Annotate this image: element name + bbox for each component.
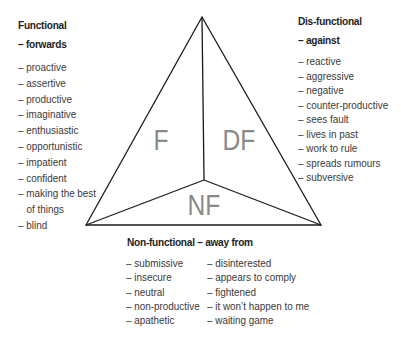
list-item: – work to rule (298, 141, 388, 156)
functional-section: Functional – forwards – proactive – asse… (18, 16, 109, 234)
list-item: – assertive (18, 76, 96, 92)
list-item: – impatient (18, 155, 96, 171)
divider-vertical (202, 17, 204, 180)
list-item: – sees fault (298, 112, 388, 127)
list-item: – confident (18, 171, 96, 187)
list-item-continuation: of things (18, 202, 96, 218)
dysfunctional-heading: Dis-functional – against (298, 12, 390, 50)
list-item: – neutral (126, 285, 200, 299)
non-functional-list-col1: – submissive – insecure – neutral – non-… (126, 256, 200, 327)
region-label-f: F (153, 124, 168, 156)
list-item: – fightened (207, 285, 309, 299)
list-item: – subversive (298, 170, 388, 185)
list-item: – enthusiastic (18, 123, 96, 139)
list-item: – non-productive (126, 299, 200, 313)
list-item: – disinterested (207, 256, 309, 270)
list-item: – submissive (126, 256, 200, 270)
non-functional-list-col2: – disinterested – appears to comply – fi… (207, 256, 309, 327)
list-item: – it won’t happen to me (207, 299, 309, 313)
list-item: – imaginative (18, 107, 96, 123)
divider-right (204, 180, 321, 225)
functional-heading: Functional – forwards (18, 16, 98, 54)
list-item: – reactive (298, 54, 388, 69)
region-label-df: DF (223, 124, 256, 156)
list-item: – aggressive (298, 69, 388, 84)
functional-heading-line1: Functional (18, 16, 98, 35)
dysfunctional-list: – reactive – aggressive – negative – cou… (298, 54, 388, 185)
dysfunctional-section: Dis-functional – against – reactive – ag… (298, 12, 401, 185)
list-item: – appears to comply (207, 270, 309, 284)
region-label-nf: NF (188, 189, 221, 221)
list-item: – waiting game (207, 313, 309, 327)
list-item: – negative (298, 83, 388, 98)
list-item: – opportunistic (18, 139, 96, 155)
functional-list: – proactive – assertive – productive – i… (18, 60, 96, 234)
dysfunctional-heading-line2: – against (298, 31, 390, 50)
dysfunctional-heading-line1: Dis-functional (298, 12, 390, 31)
list-item: – apathetic (126, 313, 200, 327)
list-item: – lives in past (298, 127, 388, 142)
list-item: – blind (18, 218, 96, 234)
non-functional-heading: Non-functional – away from (127, 233, 253, 252)
list-item: – counter-productive (298, 98, 388, 113)
list-item: – insecure (126, 270, 200, 284)
list-item: – making the best (18, 186, 96, 202)
list-item: – productive (18, 92, 96, 108)
list-item: – spreads rumours (298, 156, 388, 171)
list-item: – proactive (18, 60, 96, 76)
functional-heading-line2: – forwards (18, 35, 98, 54)
